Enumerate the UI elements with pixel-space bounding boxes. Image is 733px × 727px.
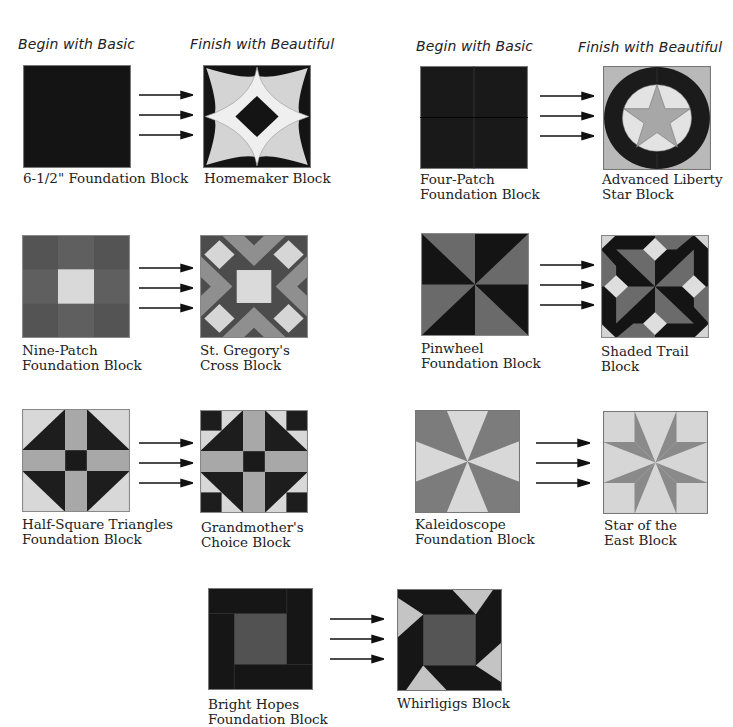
caption-half-square-triangles-block: Half-Square Triangles Foundation Block	[22, 517, 173, 547]
star-of-the-east-block	[603, 411, 708, 514]
pinwheel-block	[421, 233, 529, 336]
liberty-star-block	[603, 66, 711, 170]
solid-square-block	[23, 65, 131, 168]
caption-bright-hopes-block: Bright Hopes Foundation Block	[208, 697, 328, 727]
caption-grandmothers-choice-block: Grandmother's Choice Block	[201, 520, 304, 550]
half-square-triangles-block	[22, 409, 130, 512]
right-arrow-icon-group	[330, 614, 384, 664]
right-arrow-icon-group	[540, 91, 594, 141]
caption-kaleidoscope-block: Kaleidoscope Foundation Block	[415, 517, 535, 547]
caption-st-gregorys-cross-block: St. Gregory's Cross Block	[200, 343, 290, 373]
header-finish-with-beautiful-left: Finish with Beautiful	[190, 36, 334, 52]
grandmothers-choice-block	[200, 410, 308, 513]
right-arrow-icon-group	[139, 90, 193, 140]
four-patch-block	[420, 66, 528, 169]
caption-homemaker-block: Homemaker Block	[204, 171, 331, 186]
header-begin-with-basic-left: Begin with Basic	[18, 36, 135, 52]
caption-shaded-trail-block: Shaded Trail Block	[601, 344, 689, 374]
nine-patch-block	[22, 235, 130, 338]
caption-solid-square-block: 6-1/2" Foundation Block	[23, 171, 188, 186]
kaleidoscope-block	[415, 410, 520, 513]
whirligigs-block	[397, 589, 502, 691]
caption-liberty-star-block: Advanced Liberty Star Block	[602, 172, 723, 202]
caption-whirligigs-block: Whirligigs Block	[397, 696, 510, 711]
st-gregorys-cross-block	[200, 235, 308, 338]
bright-hopes-block	[208, 588, 313, 690]
right-arrow-icon-group	[139, 438, 193, 488]
homemaker-block	[203, 65, 311, 168]
header-begin-with-basic-right: Begin with Basic	[416, 38, 533, 54]
shaded-trail-block	[601, 235, 709, 338]
caption-four-patch-block: Four-Patch Foundation Block	[420, 172, 540, 202]
right-arrow-icon-group	[139, 263, 193, 313]
caption-pinwheel-block: Pinwheel Foundation Block	[421, 341, 541, 371]
right-arrow-icon-group	[536, 438, 590, 488]
caption-nine-patch-block: Nine-Patch Foundation Block	[22, 343, 142, 373]
right-arrow-icon-group	[540, 260, 594, 310]
caption-star-of-the-east-block: Star of the East Block	[604, 518, 677, 548]
header-finish-with-beautiful-right: Finish with Beautiful	[578, 39, 722, 55]
